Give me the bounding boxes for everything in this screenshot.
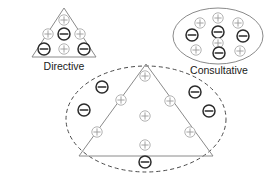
minus-token-icon (212, 26, 224, 38)
token-group-consultative (186, 13, 249, 59)
plus-token-icon (59, 44, 69, 54)
minus-token-icon (213, 47, 225, 59)
plus-token-icon (140, 140, 150, 150)
plus-token-icon (75, 29, 85, 39)
plus-token-icon (43, 29, 53, 39)
token-group-combined (78, 71, 215, 168)
diagram-canvas: Directive Consultative (0, 0, 276, 178)
plus-token-icon (191, 45, 201, 55)
plus-token-icon (195, 18, 205, 28)
directive-label: Directive (44, 60, 85, 72)
token-layer (38, 13, 249, 168)
minus-token-icon (78, 43, 90, 55)
plus-token-icon (165, 96, 175, 106)
minus-token-icon (139, 156, 151, 168)
consultative-label: Consultative (190, 64, 248, 76)
plus-token-icon (59, 15, 69, 25)
minus-token-icon (186, 29, 198, 41)
minus-token-icon (189, 86, 201, 98)
minus-token-icon (38, 43, 50, 55)
plus-token-icon (233, 18, 243, 28)
token-group-directive (38, 15, 90, 55)
plus-token-icon (235, 46, 245, 56)
minus-token-icon (78, 104, 90, 116)
minus-token-icon (96, 81, 108, 93)
minus-token-icon (203, 105, 215, 117)
plus-token-icon (116, 95, 126, 105)
plus-token-icon (140, 111, 150, 121)
diagram-svg: Directive Consultative (0, 0, 276, 178)
plus-token-icon (213, 13, 223, 23)
minus-token-icon (237, 30, 249, 42)
minus-token-icon (58, 28, 70, 40)
plus-token-icon (185, 127, 195, 137)
plus-token-icon (92, 127, 102, 137)
plus-token-icon (140, 71, 150, 81)
